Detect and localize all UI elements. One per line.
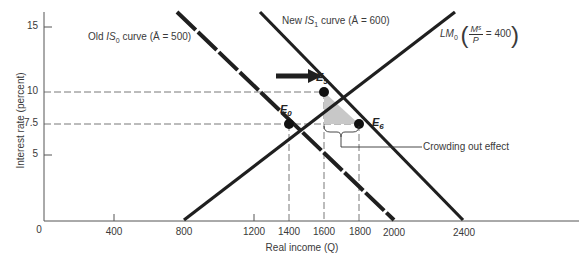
lm0-label: LM0 (MˢP = 400) bbox=[440, 24, 519, 45]
x-tick-label: 2400 bbox=[453, 227, 475, 238]
point-e5 bbox=[319, 87, 329, 97]
x-axis-label: Real income (Q) bbox=[266, 242, 339, 253]
lm0-curve bbox=[184, 12, 455, 220]
x-tick-label: 0 bbox=[36, 224, 42, 235]
x-tick-label: 2000 bbox=[383, 227, 405, 238]
x-tick-label: 1400 bbox=[278, 226, 300, 237]
x-tick-label: 1600 bbox=[313, 226, 335, 237]
x-tick-label: 1800 bbox=[349, 226, 371, 237]
e5-label: E5 bbox=[316, 71, 328, 86]
e6-label: E6 bbox=[372, 116, 384, 131]
y-axis-label: Interest rate (percent) bbox=[15, 61, 26, 181]
is1-label: New IS1 curve (Ā = 600) bbox=[282, 15, 390, 28]
crowding-brace bbox=[324, 126, 359, 137]
e0-label: E0 bbox=[280, 103, 292, 118]
x-tick-label: 1200 bbox=[243, 226, 265, 237]
is0-label: Old IS0 curve (Ā = 500) bbox=[88, 31, 191, 44]
crowding-out-label: Crowding out effect bbox=[423, 141, 509, 152]
point-e0 bbox=[284, 119, 294, 129]
x-tick-label: 400 bbox=[106, 226, 123, 237]
y-tick-label: 15 bbox=[8, 20, 38, 31]
x-tick-label: 800 bbox=[176, 226, 193, 237]
